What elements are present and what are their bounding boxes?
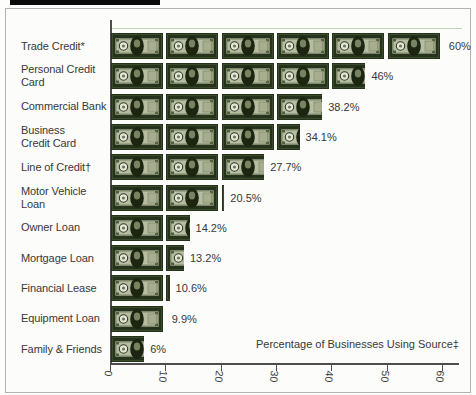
bar [111, 63, 365, 89]
dollar-bill-icon [222, 33, 274, 59]
bar [111, 336, 144, 362]
x-tick-label: 30 [268, 370, 281, 383]
value-label: 13.2% [190, 252, 221, 264]
category-label: Business Credit Card [21, 122, 111, 152]
dollar-bill-icon [111, 63, 163, 89]
category-label: Financial Lease [21, 273, 111, 303]
top-black-bar [10, 0, 160, 5]
dollar-bill-icon [111, 215, 163, 241]
bar [111, 215, 190, 241]
dollar-bill-icon [111, 124, 163, 150]
value-label: 14.2% [196, 222, 227, 234]
dollar-bill-icon [111, 33, 163, 59]
bar [111, 275, 170, 301]
bar [111, 94, 322, 120]
value-label: 6% [150, 343, 166, 355]
x-tick-label: 50 [378, 370, 391, 383]
value-label: 9.9% [172, 313, 197, 325]
category-label: Trade Credit* [21, 31, 111, 61]
bar [111, 33, 443, 59]
value-label: 20.5% [230, 192, 261, 204]
dollar-bill-icon [277, 33, 329, 59]
dollar-bill-icon [166, 275, 169, 301]
dollar-bill-icon [222, 185, 225, 211]
dollar-bill-icon [166, 94, 218, 120]
dollar-bill-icon [222, 124, 274, 150]
dollar-bill-icon [222, 94, 274, 120]
value-label: 34.1% [306, 131, 337, 143]
x-tick-label: 0 [103, 370, 115, 377]
bar [111, 185, 224, 211]
category-label: Mortgage Loan [21, 243, 111, 273]
dollar-bill-icon [166, 124, 218, 150]
value-label: 27.7% [270, 161, 301, 173]
dollar-bill-icon [166, 154, 218, 180]
value-label: 60% [449, 40, 471, 52]
dollar-bill-icon [166, 215, 189, 241]
dollar-bill-icon [166, 63, 218, 89]
category-label: Line of Credit† [21, 152, 111, 182]
x-tick-label: 60 [434, 370, 447, 383]
dollar-bill-icon [166, 185, 218, 211]
category-label: Motor Vehicle Loan [21, 183, 111, 213]
bar [111, 154, 264, 180]
category-label: Family & Friends [21, 334, 111, 364]
value-label: 10.6% [176, 282, 207, 294]
pictograph-bar-chart: Trade Credit*60%Personal Credit Card46%C… [0, 0, 476, 395]
bar [111, 306, 166, 332]
dollar-bill-icon [277, 94, 322, 120]
category-label: Owner Loan [21, 213, 111, 243]
bar [111, 124, 300, 150]
dollar-bill-icon [332, 63, 365, 89]
dollar-bill-icon [222, 154, 265, 180]
x-tick-label: 20 [213, 370, 226, 383]
x-axis-title: Percentage of Businesses Using Source‡ [256, 338, 459, 350]
dollar-bill-icon [111, 94, 163, 120]
dollar-bill-icon [111, 245, 163, 271]
dollar-bill-icon [111, 275, 163, 301]
value-label: 46% [371, 70, 393, 82]
dollar-bill-icon [388, 33, 440, 59]
dollar-bill-icon [111, 306, 163, 332]
value-label: 38.2% [328, 101, 359, 113]
dollar-bill-icon [332, 33, 384, 59]
dollar-bill-icon [166, 33, 218, 59]
plot-top-hairline [112, 28, 462, 29]
dollar-bill-icon [166, 245, 184, 271]
dollar-bill-icon [111, 185, 163, 211]
bar [111, 245, 184, 271]
dollar-bill-icon [222, 63, 274, 89]
x-tick-label: 40 [323, 370, 336, 383]
dollar-bill-icon [111, 154, 163, 180]
dollar-bill-icon [277, 124, 300, 150]
dollar-bill-icon [111, 336, 144, 362]
category-label: Personal Credit Card [21, 61, 111, 91]
category-label: Commercial Bank [21, 92, 111, 122]
x-axis-line [110, 363, 459, 365]
category-label: Equipment Loan [21, 304, 111, 334]
x-tick-label: 10 [157, 370, 170, 383]
dollar-bill-icon [277, 63, 329, 89]
